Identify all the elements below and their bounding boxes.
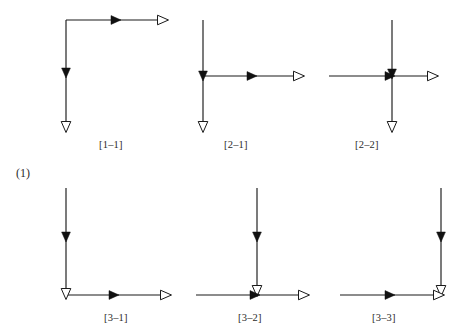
diagram-1-1-solid-right-arrowhead	[111, 16, 121, 25]
diagram-3-1-hollow-right-arrowhead	[161, 290, 172, 300]
diagram-3-2-hollow-right-arrowhead	[299, 290, 310, 300]
caption-3-2: [3–2]	[238, 312, 262, 323]
diagram-3-2-hollow-down-arrowhead	[252, 286, 262, 297]
diagram-2-2	[329, 20, 439, 133]
diagram-3-1-solid-right-arrowhead	[109, 291, 119, 300]
diagram-3-1	[61, 188, 171, 300]
diagram-1-1	[61, 15, 168, 132]
diagram-2-2-solid-down-arrowhead	[388, 69, 397, 79]
diagram-2-1	[198, 20, 304, 133]
figure-root: .ln { stroke: #1a1a1a; stroke-width: 1.1…	[0, 0, 471, 336]
diagram-2-1-solid-down-arrowhead	[199, 71, 208, 81]
diagram-3-2-solid-right-arrowhead	[250, 291, 260, 300]
arrow-diagrams-canvas: .ln { stroke: #1a1a1a; stroke-width: 1.1…	[0, 0, 471, 336]
diagram-3-3	[340, 188, 446, 300]
caption-1-1: [1–1]	[99, 139, 123, 150]
diagram-1-1-hollow-right-arrowhead	[158, 15, 169, 25]
diagram-2-1-solid-right-arrowhead	[247, 72, 257, 81]
diagram-2-2-hollow-down-arrowhead	[387, 122, 397, 133]
diagram-3-3-hollow-down-arrowhead	[436, 286, 446, 297]
diagram-3-3-solid-down-arrowhead	[437, 232, 446, 242]
group-label-1: (1)	[16, 166, 30, 181]
diagram-3-2-solid-down-arrowhead	[253, 232, 262, 242]
diagram-3-1-hollow-down-arrowhead	[61, 289, 71, 300]
diagram-2-1-hollow-down-arrowhead	[198, 122, 208, 133]
diagram-1-1-hollow-down-arrowhead	[61, 122, 71, 133]
diagram-2-2-hollow-right-arrowhead	[428, 71, 439, 81]
caption-3-1: [3–1]	[104, 312, 128, 323]
diagram-2-2-solid-right-arrowhead	[385, 72, 395, 81]
diagram-3-3-hollow-right-arrowhead	[434, 290, 445, 300]
caption-2-1: [2–1]	[224, 139, 248, 150]
caption-2-2: [2–2]	[355, 139, 379, 150]
diagram-3-3-solid-right-arrowhead	[385, 291, 395, 300]
caption-3-3: [3–3]	[372, 312, 396, 323]
diagram-1-1-solid-down-arrowhead	[62, 68, 71, 78]
diagram-3-2	[196, 188, 310, 300]
diagram-3-1-solid-down-arrowhead	[62, 232, 71, 242]
diagram-2-1-hollow-right-arrowhead	[294, 71, 305, 81]
